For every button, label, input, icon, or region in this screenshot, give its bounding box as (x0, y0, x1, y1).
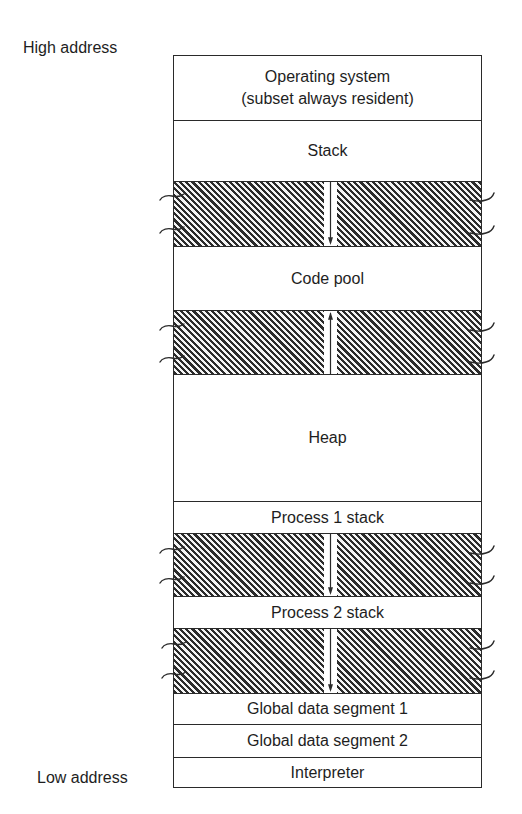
arrow-down-icon (324, 534, 337, 596)
region-label: Interpreter (291, 762, 365, 784)
high-address-label: High address (23, 39, 117, 57)
region-label: Process 2 stack (271, 602, 384, 624)
growth-channel (324, 534, 337, 596)
region-code-pool: Code pool (174, 246, 481, 310)
region-heap: Heap (174, 374, 481, 501)
low-address-label: Low address (37, 769, 128, 787)
region-label: Code pool (291, 268, 364, 290)
region-label: Global data segment 1 (247, 698, 408, 720)
region-global-data-segment-2: Global data segment 2 (174, 724, 481, 757)
region-label: Heap (308, 427, 346, 449)
region-stack: Stack (174, 120, 481, 181)
region-label: Stack (307, 140, 347, 162)
free-space-p2-global (174, 628, 481, 693)
region-process-2-stack: Process 2 stack (174, 596, 481, 628)
region-process-1-stack: Process 1 stack (174, 501, 481, 533)
arrow-down-icon (324, 182, 337, 246)
arrow-down-icon (324, 629, 337, 693)
free-space-p1-p2 (174, 533, 481, 596)
growth-channel (324, 311, 337, 374)
region-label: Global data segment 2 (247, 730, 408, 752)
arrow-up-icon (324, 311, 337, 374)
region-global-data-segment-1: Global data segment 1 (174, 693, 481, 724)
region-label: Operating system (265, 66, 390, 88)
memory-map: Operating system (subset always resident… (173, 55, 482, 788)
free-space-code-heap (174, 310, 481, 374)
growth-channel (324, 182, 337, 246)
region-operating-system: Operating system (subset always resident… (174, 56, 481, 120)
region-interpreter: Interpreter (174, 757, 481, 787)
growth-channel (324, 629, 337, 693)
region-label: Process 1 stack (271, 507, 384, 529)
free-space-stack-code (174, 181, 481, 246)
region-label: (subset always resident) (241, 88, 414, 110)
